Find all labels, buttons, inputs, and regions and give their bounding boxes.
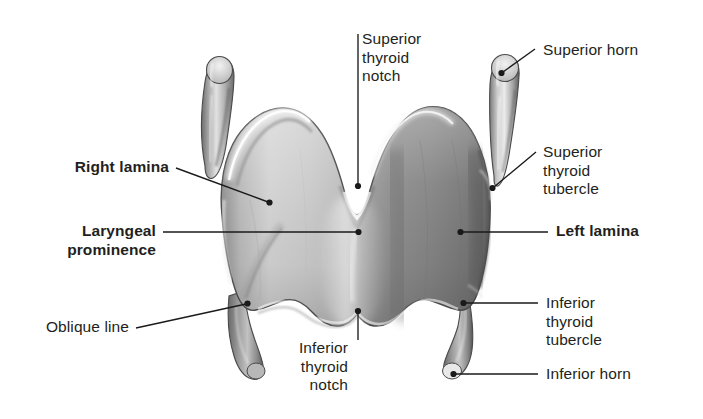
label-right-lamina: Right lamina: [6, 158, 169, 177]
label-superior-thyroid-tubercle: Superior thyroid tubercle: [543, 143, 602, 199]
label-inferior-thyroid-notch: Inferior thyroid notch: [230, 339, 348, 395]
anatomical-figure: Superior thyroid notch Superior horn Sup…: [0, 0, 703, 419]
label-laryngeal-prominence: Laryngeal prominence: [4, 222, 156, 259]
thyroid-cartilage-illustration: [0, 0, 703, 419]
label-superior-thyroid-notch: Superior thyroid notch: [362, 30, 421, 86]
label-left-lamina: Left lamina: [556, 222, 639, 241]
label-oblique-line: Oblique line: [0, 318, 129, 337]
label-inferior-horn: Inferior horn: [546, 365, 631, 384]
label-inferior-thyroid-tubercle: Inferior thyroid tubercle: [546, 294, 602, 350]
thyroid-cartilage-body: [221, 107, 491, 330]
label-superior-horn: Superior horn: [543, 41, 638, 60]
left-superior-horn: [490, 55, 519, 187]
